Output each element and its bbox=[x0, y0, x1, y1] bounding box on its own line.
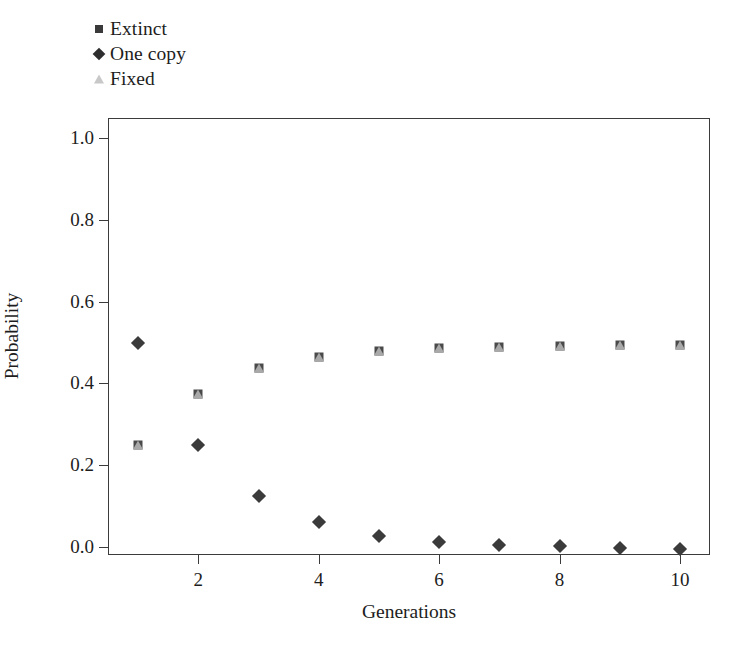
triangle-marker-icon bbox=[374, 346, 384, 355]
legend-item-one-copy: One copy bbox=[88, 41, 318, 66]
y-tick-mark bbox=[99, 465, 108, 466]
x-tick-mark bbox=[198, 555, 199, 564]
legend-label-extinct: Extinct bbox=[110, 19, 167, 39]
legend-label-one-copy: One copy bbox=[110, 44, 186, 64]
y-tick-label: 0.8 bbox=[70, 209, 94, 231]
y-tick-label: 0.2 bbox=[70, 454, 94, 476]
legend-item-extinct: Extinct bbox=[88, 16, 318, 41]
x-tick-label: 8 bbox=[555, 569, 565, 591]
diamond-marker-icon bbox=[251, 489, 265, 503]
chart-figure: Extinct One copy Fixed 0.00.20.40.60.81.… bbox=[0, 0, 741, 655]
x-tick-mark bbox=[560, 555, 561, 564]
diamond-marker-icon bbox=[432, 534, 446, 548]
y-tick-mark bbox=[99, 383, 108, 384]
legend-item-fixed: Fixed bbox=[88, 66, 318, 91]
triangle-marker-icon bbox=[615, 341, 625, 350]
y-tick-label: 0.4 bbox=[70, 372, 94, 394]
x-axis-title: Generations bbox=[108, 601, 710, 623]
triangle-marker-icon bbox=[88, 69, 110, 89]
square-marker-icon bbox=[88, 19, 110, 39]
diamond-marker-icon bbox=[492, 538, 506, 552]
triangle-marker-icon bbox=[675, 341, 685, 350]
x-tick-label: 6 bbox=[434, 569, 444, 591]
triangle-marker-icon bbox=[314, 352, 324, 361]
x-tick-mark bbox=[439, 555, 440, 564]
chart-legend: Extinct One copy Fixed bbox=[88, 16, 318, 91]
triangle-marker-icon bbox=[133, 440, 143, 449]
y-tick-label: 0.6 bbox=[70, 291, 94, 313]
x-tick-label: 2 bbox=[194, 569, 204, 591]
triangle-marker-icon bbox=[494, 342, 504, 351]
diamond-marker-icon bbox=[613, 541, 627, 555]
diamond-marker-icon bbox=[673, 542, 687, 556]
y-tick-mark bbox=[99, 302, 108, 303]
legend-label-fixed: Fixed bbox=[110, 69, 155, 89]
y-tick-mark bbox=[99, 220, 108, 221]
triangle-marker-icon bbox=[254, 363, 264, 372]
triangle-marker-icon bbox=[555, 341, 565, 350]
diamond-marker-icon bbox=[191, 438, 205, 452]
triangle-marker-icon bbox=[193, 389, 203, 398]
diamond-marker-icon bbox=[372, 529, 386, 543]
triangle-marker-icon bbox=[434, 343, 444, 352]
plot-area: 0.00.20.40.60.81.0 246810 bbox=[108, 118, 710, 555]
diamond-marker-icon bbox=[312, 515, 326, 529]
y-tick-mark bbox=[99, 138, 108, 139]
x-tick-mark bbox=[319, 555, 320, 564]
x-tick-label: 4 bbox=[314, 569, 324, 591]
diamond-marker-icon bbox=[552, 539, 566, 553]
y-tick-mark bbox=[99, 547, 108, 548]
y-tick-label: 0.0 bbox=[70, 536, 94, 558]
y-axis-title: Probability bbox=[1, 293, 23, 380]
diamond-marker-icon bbox=[131, 336, 145, 350]
x-tick-label: 10 bbox=[670, 569, 689, 591]
y-tick-label: 1.0 bbox=[70, 127, 94, 149]
x-tick-mark bbox=[680, 555, 681, 564]
diamond-marker-icon bbox=[88, 44, 110, 64]
